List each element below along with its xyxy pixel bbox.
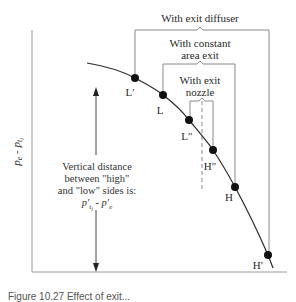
note-line: and "low" sides is: xyxy=(48,185,146,197)
note-formula: p′ti - p′e xyxy=(48,197,146,215)
axes xyxy=(32,30,287,272)
svg-text:pe - pti: pe - pti xyxy=(10,138,25,167)
label-l-prime: L′ xyxy=(125,86,134,98)
bracket-label-line2: area exit xyxy=(181,49,219,61)
bracket-label-line1: With constant xyxy=(170,37,231,49)
vertical-distance-note: Vertical distance between "high" and "lo… xyxy=(48,161,146,215)
note-line: Vertical distance xyxy=(48,161,146,173)
bracket-label-line1: With exit xyxy=(180,74,221,86)
bracket-label-line2: nozzle xyxy=(186,86,215,98)
point-h-double-prime xyxy=(209,146,217,154)
point-h xyxy=(231,183,239,191)
label-l: L xyxy=(157,104,164,116)
arrow-down-icon xyxy=(93,263,99,272)
label-h-double-prime: H″ xyxy=(204,160,217,172)
arrow-up-icon xyxy=(93,87,99,96)
y-axis-label: pe - pti xyxy=(10,138,25,167)
bracket-label: With exit diffuser xyxy=(161,12,239,24)
label-l-double-prime: L″ xyxy=(181,130,192,142)
figure-caption: Figure 10.27 Effect of exit... xyxy=(8,291,130,302)
label-h-prime: H′ xyxy=(253,259,263,271)
point-l-prime xyxy=(131,74,139,82)
point-h-prime xyxy=(264,251,272,259)
bracket-constant-area-exit: With constant area exit xyxy=(163,37,235,187)
point-labels: L′ L L″ H″ H H′ xyxy=(125,86,263,271)
point-l xyxy=(159,91,167,99)
label-h: H xyxy=(225,191,233,203)
point-l-double-prime xyxy=(185,116,193,124)
note-line: between "high" xyxy=(48,173,146,185)
